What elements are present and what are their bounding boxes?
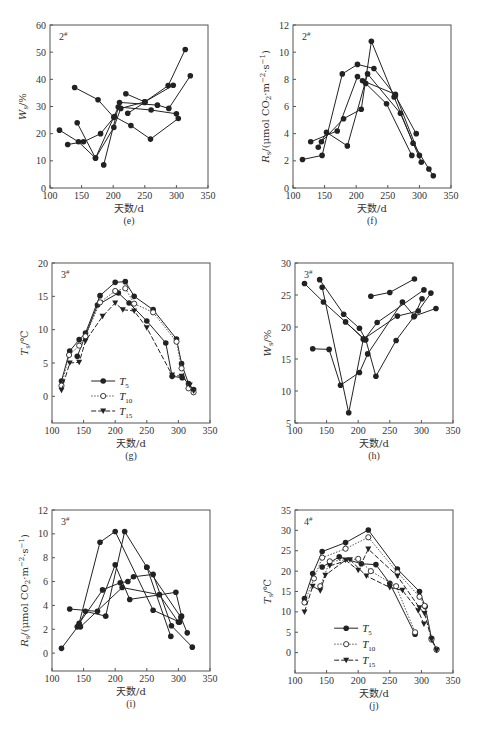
- x-axis-label: 天数/d: [359, 437, 389, 449]
- filled-circle-marker: [368, 293, 374, 299]
- triangle-down-marker: [317, 588, 323, 594]
- chart-panel-e: 1001502002503003500102030405060天数/d(e)Ws…: [17, 20, 216, 228]
- open-circle-marker: [327, 559, 332, 564]
- filled-circle-marker: [112, 529, 118, 535]
- triangle-down-marker: [415, 608, 421, 614]
- filled-circle-marker: [123, 279, 129, 285]
- filled-circle-marker: [81, 139, 87, 145]
- filled-circle-marker: [360, 78, 366, 84]
- open-circle-marker: [422, 603, 427, 608]
- filled-circle-marker: [362, 337, 368, 343]
- x-tick-label: 350: [446, 675, 461, 686]
- y-tick-label: 10: [279, 47, 289, 58]
- filled-circle-marker: [336, 554, 342, 560]
- panel-caption: (i): [126, 698, 135, 710]
- x-axis-label: 天数/d: [116, 437, 146, 449]
- filled-circle-marker: [300, 157, 306, 163]
- filled-circle-marker: [93, 155, 99, 161]
- filled-circle-marker: [400, 299, 406, 305]
- filled-circle-marker: [76, 337, 82, 343]
- series-s1: [59, 529, 183, 651]
- filled-circle-marker: [319, 549, 325, 555]
- y-tick-label: 8: [284, 74, 289, 85]
- y-tick-label: 10: [38, 528, 48, 539]
- open-circle-marker: [66, 352, 71, 357]
- series-s2: [65, 114, 181, 148]
- y-tick-label: 0: [41, 183, 46, 194]
- triangle-down-marker: [301, 609, 307, 615]
- y-tick-label: 10: [281, 386, 291, 397]
- site-label: 4#: [304, 515, 313, 527]
- filled-circle-marker: [373, 562, 379, 568]
- open-circle-marker: [344, 642, 349, 647]
- x-tick-label: 250: [139, 673, 154, 684]
- series-T5b: [74, 290, 185, 380]
- series-line: [330, 560, 424, 624]
- filled-circle-marker: [384, 101, 390, 107]
- filled-circle-marker: [326, 347, 332, 353]
- filled-circle-marker: [131, 574, 137, 580]
- y-tick-label: 60: [36, 20, 46, 31]
- y-tick-label: 20: [36, 128, 46, 139]
- filled-circle-marker: [417, 589, 423, 595]
- filled-circle-marker: [373, 373, 379, 379]
- x-tick-label: 350: [446, 425, 461, 436]
- x-tick-label: 250: [137, 190, 152, 201]
- x-tick-label: 250: [382, 425, 397, 436]
- filled-circle-marker: [317, 277, 323, 283]
- panel-caption: (g): [125, 450, 137, 462]
- x-tick-label: 350: [203, 425, 218, 436]
- filled-circle-marker: [144, 564, 150, 570]
- series-T15: [301, 547, 439, 654]
- filled-circle-marker: [119, 585, 125, 591]
- panel-caption: (j): [369, 700, 378, 712]
- filled-circle-marker: [74, 354, 80, 360]
- filled-circle-marker: [338, 382, 344, 388]
- filled-circle-marker: [168, 634, 174, 640]
- legend: T5T10T15: [89, 375, 141, 420]
- filled-circle-marker: [346, 410, 352, 416]
- filled-circle-marker: [339, 71, 345, 77]
- y-tick-label: 20: [281, 322, 291, 333]
- x-axis-label: 天数/d: [357, 202, 387, 214]
- filled-circle-marker: [421, 287, 427, 293]
- x-tick-label: 150: [319, 675, 334, 686]
- filled-circle-marker: [67, 606, 73, 612]
- x-tick-label: 350: [203, 673, 218, 684]
- filled-circle-marker: [117, 580, 123, 586]
- figure-canvas: 1001502002503003500102030405060天数/d(e)Ws…: [0, 0, 480, 737]
- series-s3: [74, 47, 188, 161]
- y-tick-label: 4: [43, 600, 48, 611]
- series-s1: [57, 104, 180, 161]
- site-label: 2#: [59, 30, 68, 42]
- filled-circle-marker: [343, 625, 349, 631]
- filled-circle-marker: [117, 100, 123, 106]
- filled-circle-marker: [173, 589, 179, 595]
- filled-circle-marker: [95, 97, 101, 103]
- filled-circle-marker: [184, 630, 190, 636]
- series-line: [371, 279, 415, 296]
- filled-circle-marker: [395, 313, 401, 319]
- filled-circle-marker: [98, 131, 104, 137]
- y-tick-label: 5: [43, 358, 48, 369]
- y-tick-label: 10: [36, 155, 46, 166]
- filled-circle-marker: [412, 276, 418, 282]
- filled-circle-marker: [97, 539, 103, 545]
- series-line: [126, 85, 173, 102]
- filled-circle-marker: [358, 106, 364, 112]
- filled-circle-marker: [190, 644, 196, 650]
- filled-circle-marker: [76, 139, 82, 145]
- filled-circle-marker: [409, 153, 415, 159]
- filled-circle-marker: [72, 85, 78, 91]
- x-tick-label: 350: [444, 190, 459, 201]
- y-tick-label: 25: [281, 290, 291, 301]
- y-tick-label: 10: [281, 606, 291, 617]
- y-axis-label: Ts/℃: [262, 579, 275, 604]
- y-axis-label: Rs/(μmol CO2·m−2·s−1): [18, 534, 32, 648]
- series-s6: [368, 276, 417, 299]
- filled-circle-marker: [334, 128, 340, 134]
- filled-circle-marker: [166, 106, 172, 112]
- series-line: [77, 50, 185, 159]
- x-axis-label: 天数/d: [114, 202, 144, 214]
- x-axis-label: 天数/d: [359, 687, 389, 699]
